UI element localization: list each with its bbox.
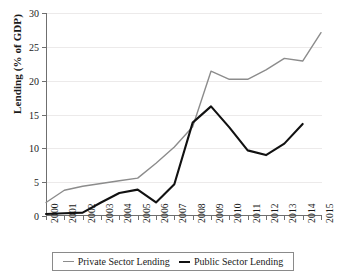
series-line (46, 33, 321, 203)
legend-item-private: Private Sector Lending (63, 256, 170, 267)
private-line-swatch (63, 261, 74, 262)
line-chart: Lending (% of GDP) 051015202530 20002001… (0, 0, 342, 279)
public-line-swatch (179, 261, 190, 263)
y-tick-label: 15 (29, 109, 39, 120)
legend-item-public: Public Sector Lending (179, 256, 283, 267)
series-line (46, 106, 303, 214)
legend-label-private: Private Sector Lending (78, 256, 170, 267)
x-tick-label: 2015 (325, 203, 335, 223)
y-tick-label: 0 (34, 211, 39, 222)
y-axis-title: Lending (% of GDP) (11, 0, 23, 139)
y-tick-label: 30 (29, 8, 39, 19)
chart-legend: Private Sector Lending Public Sector Len… (52, 252, 294, 271)
y-tick-label: 25 (29, 41, 39, 52)
y-tick-label: 20 (29, 75, 39, 86)
y-tick-label: 5 (34, 177, 39, 188)
y-tick-label: 10 (29, 143, 39, 154)
series-lines (46, 13, 322, 216)
legend-label-public: Public Sector Lending (194, 256, 283, 267)
plot-area: 051015202530 200020012002200320042005200… (46, 13, 322, 216)
